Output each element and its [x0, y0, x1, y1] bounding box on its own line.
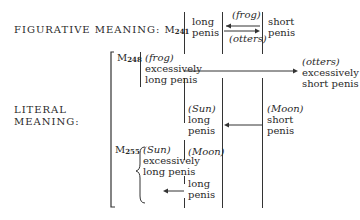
sun-long-penis-node: (Sun) long penis — [188, 103, 216, 136]
divider-mid-lit — [222, 78, 223, 208]
myth-ref-m248: M248 — [117, 52, 142, 65]
myth-ref-m255: M255 — [115, 144, 140, 157]
divider-right-lit — [262, 78, 263, 208]
divider-left-lit4 — [184, 198, 185, 208]
moon-short-penis-node: (Moon) short penis — [267, 103, 304, 136]
divider-left-lit3 — [184, 176, 185, 184]
m248-otters-node: (otters) excessively short penis — [302, 56, 359, 89]
m248-frog-node: (frog) excessively long penis — [145, 52, 202, 85]
diagram-lines — [0, 0, 360, 220]
m255-moon-label: (Moon) — [188, 146, 225, 157]
m255-long-penis-node: long penis — [188, 178, 215, 200]
